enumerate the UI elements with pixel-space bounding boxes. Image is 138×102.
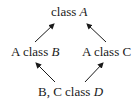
node-name: C [122,44,131,59]
node-prefix: B, C [38,84,62,99]
node-prefix: A [11,44,20,59]
node-class-d: B, C class D [38,85,103,99]
node-name: A [80,4,88,19]
node-keyword: class [51,4,76,19]
edge-b-to-a [35,24,54,42]
node-keyword: class [23,44,48,59]
node-class-a: class A [51,5,87,19]
edge-d-to-b [36,63,55,82]
node-class-c: A class C [82,45,131,59]
node-class-b: A class B [11,45,59,59]
node-keyword: class [94,44,119,59]
node-name: B [51,44,59,59]
node-prefix: A [82,44,91,59]
node-keyword: class [65,84,90,99]
edge-c-to-a [87,24,106,42]
edge-d-to-c [85,63,103,82]
node-name: D [94,84,103,99]
